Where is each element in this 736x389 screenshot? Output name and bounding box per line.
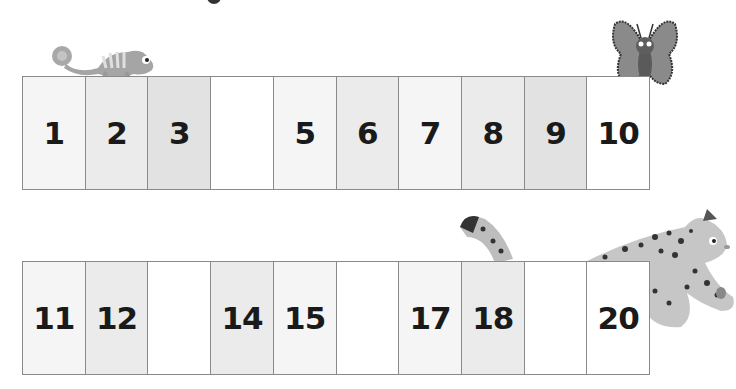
number-cell: 20 (587, 262, 650, 374)
number-cell-blank[interactable] (211, 77, 274, 189)
number-strip-11-to-20: 11 12 14 15 17 18 20 (22, 261, 650, 375)
number-cell: 9 (525, 77, 588, 189)
number-cell: 6 (337, 77, 400, 189)
number-cell: 1 (23, 77, 86, 189)
number-cell: 3 (148, 77, 211, 189)
number-cell: 14 (211, 262, 274, 374)
number-cell: 15 (274, 262, 337, 374)
number-cell: 18 (462, 262, 525, 374)
number-cell: 17 (399, 262, 462, 374)
number-cell-blank[interactable] (525, 262, 588, 374)
cropped-title-fragment (207, 0, 221, 4)
number-cell: 11 (23, 262, 86, 374)
number-cell: 7 (399, 77, 462, 189)
number-cell: 5 (274, 77, 337, 189)
number-cell: 12 (86, 262, 149, 374)
number-cell-blank[interactable] (148, 262, 211, 374)
number-cell: 10 (587, 77, 650, 189)
number-strip-1-to-10: 1 2 3 5 6 7 8 9 10 (22, 76, 650, 190)
number-cell: 2 (86, 77, 149, 189)
number-cell-blank[interactable] (337, 262, 400, 374)
number-cell: 8 (462, 77, 525, 189)
